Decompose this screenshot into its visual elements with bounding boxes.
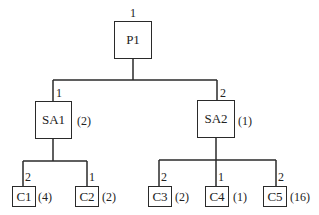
c5-edge-label: 2 (278, 171, 284, 183)
c3-count: (2) (175, 191, 189, 203)
node-c1: C1 (12, 186, 36, 207)
node-c2: C2 (75, 186, 99, 207)
c4-count: (1) (233, 191, 247, 203)
c1-edge-label: 2 (25, 171, 31, 183)
node-c4: C4 (205, 186, 229, 207)
sa1-edge-label: 1 (56, 87, 62, 99)
c2-count: (2) (102, 191, 116, 203)
sa2-count: (1) (238, 115, 252, 127)
c4-edge-label: 1 (218, 171, 224, 183)
sa2-edge-label: 2 (220, 87, 226, 99)
node-p1: P1 (114, 21, 152, 59)
node-c3: C3 (148, 186, 172, 207)
c3-edge-label: 2 (161, 171, 167, 183)
sa1-count: (2) (77, 115, 91, 127)
c1-count: (4) (38, 191, 52, 203)
node-sa1: SA1 (35, 101, 72, 139)
node-c5: C5 (263, 186, 287, 207)
c2-edge-label: 1 (89, 171, 95, 183)
node-sa2: SA2 (197, 100, 235, 138)
c5-count: (16) (290, 191, 310, 203)
p1-edge-label: 1 (130, 7, 136, 19)
